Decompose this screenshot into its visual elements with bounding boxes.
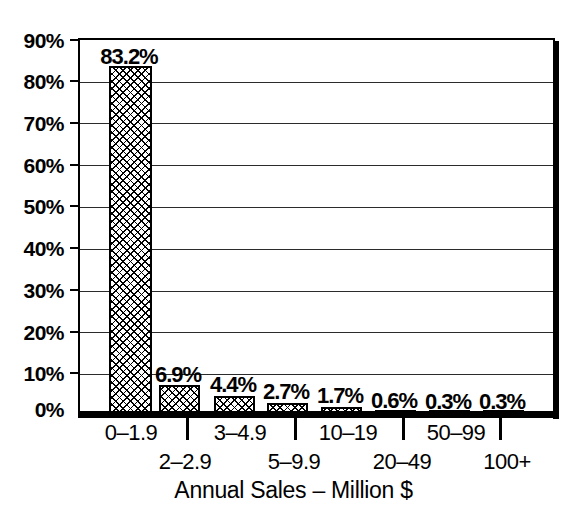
y-tick-10 bbox=[70, 372, 79, 374]
bar-2-2.9 bbox=[159, 385, 200, 414]
x-axis-label-3-4.9: 3–4.9 bbox=[214, 420, 267, 446]
x-tick-2 bbox=[294, 418, 297, 440]
y-axis-label-30: 30% bbox=[23, 279, 64, 303]
plot-right-border bbox=[553, 41, 559, 419]
bar-chart: 90% 80% 70% 60% 50% 40% 30% 20% 10% 0% 8… bbox=[0, 0, 587, 523]
y-tick-20 bbox=[70, 331, 79, 333]
data-label-10-19: 1.7% bbox=[317, 383, 363, 409]
plot-area bbox=[78, 38, 555, 414]
y-tick-50 bbox=[70, 205, 79, 207]
data-label-2-2.9: 6.9% bbox=[155, 362, 201, 388]
x-axis-label-0-1.9: 0–1.9 bbox=[105, 420, 158, 446]
x-axis-label-50-99: 50–99 bbox=[427, 420, 486, 446]
y-tick-70 bbox=[70, 122, 79, 124]
x-axis-label-2-2.9: 2–2.9 bbox=[159, 449, 212, 475]
y-tick-60 bbox=[70, 164, 79, 166]
x-axis-title: Annual Sales – Million $ bbox=[0, 477, 587, 504]
x-axis-label-100plus: 100+ bbox=[483, 449, 531, 475]
y-axis-label-10: 10% bbox=[23, 362, 64, 386]
data-label-50-99: 0.3% bbox=[425, 389, 471, 415]
y-tick-80 bbox=[70, 80, 79, 82]
x-tick-4 bbox=[499, 418, 502, 440]
y-axis-label-60: 60% bbox=[23, 154, 64, 178]
x-tick-1 bbox=[186, 418, 189, 440]
bar-0-1.9 bbox=[109, 66, 152, 414]
y-tick-40 bbox=[70, 247, 79, 249]
bars-layer bbox=[80, 40, 553, 414]
data-label-100plus: 0.3% bbox=[479, 389, 525, 415]
data-label-20-49: 0.6% bbox=[371, 388, 417, 414]
y-tick-90 bbox=[70, 39, 79, 41]
x-axis-label-5-9.9: 5–9.9 bbox=[268, 449, 321, 475]
y-axis-label-0: 0% bbox=[35, 398, 64, 422]
y-axis-label-50: 50% bbox=[23, 195, 64, 219]
x-axis-label-20-49: 20–49 bbox=[373, 449, 432, 475]
y-tick-30 bbox=[70, 289, 79, 291]
y-axis-label-80: 80% bbox=[23, 70, 64, 94]
y-axis-label-40: 40% bbox=[23, 237, 64, 261]
y-axis-label-70: 70% bbox=[23, 112, 64, 136]
x-tick-3 bbox=[402, 418, 405, 440]
data-label-3-4.9: 4.4% bbox=[210, 372, 256, 398]
y-axis-label-20: 20% bbox=[23, 321, 64, 345]
data-label-0-1.9: 83.2% bbox=[100, 44, 157, 70]
x-axis-label-10-19: 10–19 bbox=[319, 420, 378, 446]
y-axis-label-90: 90% bbox=[23, 29, 64, 53]
data-label-5-9.9: 2.7% bbox=[263, 379, 309, 405]
